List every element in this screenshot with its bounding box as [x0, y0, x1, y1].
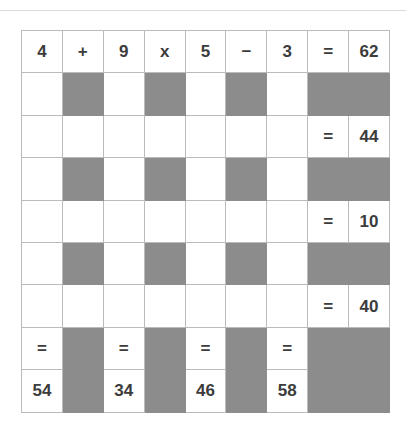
- grid-cell-empty[interactable]: [22, 115, 63, 157]
- grid-cell-empty[interactable]: [185, 158, 226, 200]
- grid-cell-empty[interactable]: [267, 158, 308, 200]
- grid-cell-shaded: [144, 370, 185, 412]
- grid-cell-shaded: [349, 370, 390, 412]
- grid-cell-empty[interactable]: [185, 285, 226, 327]
- math-puzzle-container: 4+9x5−3=62=44=10=40====54344658: [21, 30, 389, 412]
- grid-cell-empty[interactable]: [103, 115, 144, 157]
- grid-cell-value[interactable]: =: [308, 31, 349, 73]
- grid-cell-shaded: [144, 327, 185, 369]
- math-puzzle-grid: 4+9x5−3=62=44=10=40====54344658: [21, 30, 390, 413]
- grid-cell-empty[interactable]: [103, 285, 144, 327]
- grid-cell-value[interactable]: 62: [349, 31, 390, 73]
- grid-cell-value[interactable]: =: [308, 115, 349, 157]
- grid-row: 54344658: [22, 370, 390, 412]
- grid-cell-value[interactable]: x: [144, 31, 185, 73]
- grid-cell-value[interactable]: =: [308, 200, 349, 242]
- grid-cell-empty[interactable]: [103, 242, 144, 284]
- grid-cell-empty[interactable]: [226, 200, 267, 242]
- grid-cell-shaded: [62, 370, 103, 412]
- grid-row: =40: [22, 285, 390, 327]
- grid-cell-value[interactable]: =: [103, 327, 144, 369]
- grid-cell-value[interactable]: 44: [349, 115, 390, 157]
- grid-cell-shaded: [349, 158, 390, 200]
- grid-body: 4+9x5−3=62=44=10=40====54344658: [22, 31, 390, 413]
- grid-row: 4+9x5−3=62: [22, 31, 390, 73]
- grid-cell-empty[interactable]: [267, 115, 308, 157]
- grid-cell-shaded: [62, 242, 103, 284]
- grid-cell-value[interactable]: 54: [22, 370, 63, 412]
- grid-cell-empty[interactable]: [103, 158, 144, 200]
- grid-cell-value[interactable]: =: [22, 327, 63, 369]
- grid-cell-empty[interactable]: [185, 242, 226, 284]
- grid-row: =10: [22, 200, 390, 242]
- grid-cell-value[interactable]: =: [308, 285, 349, 327]
- grid-cell-empty[interactable]: [103, 200, 144, 242]
- grid-cell-shaded: [226, 327, 267, 369]
- grid-cell-value[interactable]: 40: [349, 285, 390, 327]
- grid-cell-value[interactable]: 58: [267, 370, 308, 412]
- grid-cell-value[interactable]: 5: [185, 31, 226, 73]
- grid-row: ====: [22, 327, 390, 369]
- grid-cell-empty[interactable]: [267, 285, 308, 327]
- grid-cell-empty[interactable]: [62, 285, 103, 327]
- grid-cell-empty[interactable]: [267, 242, 308, 284]
- grid-cell-empty[interactable]: [144, 285, 185, 327]
- grid-cell-shaded: [308, 370, 349, 412]
- grid-cell-value[interactable]: 4: [22, 31, 63, 73]
- top-divider-rule: [0, 10, 406, 11]
- grid-cell-empty[interactable]: [103, 73, 144, 115]
- grid-cell-empty[interactable]: [22, 285, 63, 327]
- grid-cell-shaded: [308, 73, 349, 115]
- grid-cell-shaded: [226, 73, 267, 115]
- grid-cell-empty[interactable]: [62, 200, 103, 242]
- grid-cell-shaded: [349, 242, 390, 284]
- grid-cell-empty[interactable]: [226, 115, 267, 157]
- grid-cell-shaded: [226, 370, 267, 412]
- grid-cell-value[interactable]: 46: [185, 370, 226, 412]
- grid-cell-shaded: [62, 327, 103, 369]
- grid-cell-empty[interactable]: [267, 200, 308, 242]
- grid-cell-empty[interactable]: [62, 115, 103, 157]
- grid-cell-empty[interactable]: [144, 115, 185, 157]
- grid-cell-shaded: [144, 158, 185, 200]
- grid-cell-shaded: [349, 73, 390, 115]
- grid-cell-shaded: [308, 242, 349, 284]
- grid-cell-value[interactable]: 10: [349, 200, 390, 242]
- grid-row: [22, 242, 390, 284]
- grid-cell-value[interactable]: =: [185, 327, 226, 369]
- grid-cell-empty[interactable]: [185, 200, 226, 242]
- grid-cell-shaded: [349, 327, 390, 369]
- grid-cell-value[interactable]: 3: [267, 31, 308, 73]
- grid-cell-shaded: [144, 73, 185, 115]
- grid-cell-shaded: [226, 242, 267, 284]
- grid-cell-shaded: [226, 158, 267, 200]
- grid-cell-value[interactable]: 9: [103, 31, 144, 73]
- grid-cell-empty[interactable]: [22, 242, 63, 284]
- grid-cell-empty[interactable]: [185, 73, 226, 115]
- grid-cell-shaded: [308, 158, 349, 200]
- grid-cell-shaded: [62, 73, 103, 115]
- grid-cell-empty[interactable]: [185, 115, 226, 157]
- grid-cell-shaded: [308, 327, 349, 369]
- grid-cell-empty[interactable]: [144, 200, 185, 242]
- grid-cell-value[interactable]: +: [62, 31, 103, 73]
- grid-cell-empty[interactable]: [22, 200, 63, 242]
- grid-cell-empty[interactable]: [22, 73, 63, 115]
- grid-cell-shaded: [62, 158, 103, 200]
- grid-cell-value[interactable]: =: [267, 327, 308, 369]
- grid-cell-empty[interactable]: [22, 158, 63, 200]
- grid-row: =44: [22, 115, 390, 157]
- grid-row: [22, 158, 390, 200]
- grid-cell-empty[interactable]: [267, 73, 308, 115]
- grid-row: [22, 73, 390, 115]
- grid-cell-empty[interactable]: [226, 285, 267, 327]
- grid-cell-value[interactable]: −: [226, 31, 267, 73]
- grid-cell-shaded: [144, 242, 185, 284]
- grid-cell-value[interactable]: 34: [103, 370, 144, 412]
